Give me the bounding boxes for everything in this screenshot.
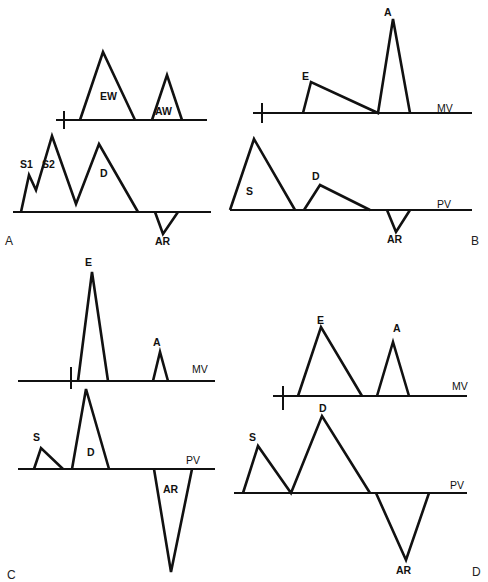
trace-label-pv: PV: [450, 479, 464, 491]
wave-label: AR: [387, 233, 403, 245]
panel-letter: D: [472, 565, 481, 579]
trace-label-mv: MV: [452, 380, 468, 392]
wave-label: AW: [155, 105, 172, 117]
panel-letter: B: [471, 234, 479, 248]
doppler-flow-figure: EWAWS1S2DARA EAMVSDARPVB EAMVSDARPVC EAM…: [0, 0, 488, 582]
figure-canvas: EWAWS1S2DARA EAMVSDARPVB EAMVSDARPVC EAM…: [0, 0, 488, 582]
wave-label: D: [100, 167, 108, 179]
wave-label: D: [87, 446, 95, 458]
wave-label: AR: [396, 564, 412, 576]
wave-label: E: [85, 256, 92, 268]
wave-label: A: [384, 6, 392, 18]
trace-label-mv: MV: [192, 363, 208, 375]
wave-label: S: [33, 431, 40, 443]
trace-label-mv: MV: [437, 102, 453, 114]
panel-letter: C: [7, 568, 16, 582]
wave-label: A: [153, 336, 161, 348]
trace-label-pv: PV: [437, 198, 451, 210]
wave-label: S1: [20, 158, 33, 170]
wave-label: D: [319, 402, 327, 414]
wave-label: EW: [100, 90, 117, 102]
wave-label: D: [312, 170, 320, 182]
trace-label-pv: PV: [186, 454, 200, 466]
wave-label: S: [246, 185, 253, 197]
wave-label: AR: [155, 235, 171, 247]
wave-label: E: [302, 70, 309, 82]
wave-label: S: [249, 431, 256, 443]
wave-label: S2: [42, 158, 55, 170]
wave-label: E: [317, 314, 324, 326]
wave-label: A: [393, 322, 401, 334]
panel-letter: A: [5, 234, 13, 248]
background: [0, 0, 488, 582]
wave-label: AR: [163, 483, 179, 495]
